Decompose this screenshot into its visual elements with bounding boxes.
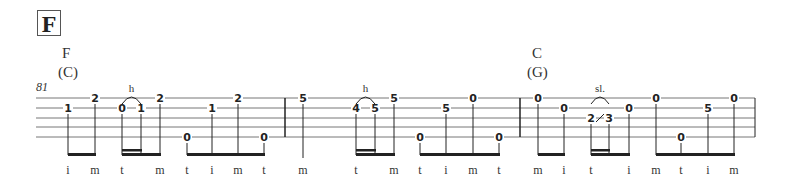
technique-label: h [363, 82, 369, 94]
tablature-staff: 1i2m0t12m0t1i2m0t5m4t55m0t5i0m0t0m0i2t30… [0, 0, 789, 184]
fret-number: 0 [260, 131, 268, 144]
fret-number: 0 [469, 92, 477, 105]
beam [538, 153, 565, 156]
fret-number: 1 [64, 102, 72, 115]
fret-number: 1 [208, 102, 216, 115]
finger-label: i [210, 163, 214, 177]
fret-number: 2 [91, 92, 99, 105]
fret-number: 2 [587, 112, 595, 125]
fret-number: 5 [704, 102, 712, 115]
fret-number: 0 [183, 131, 191, 144]
sub-beam [591, 149, 610, 152]
finger-label: i [627, 163, 631, 177]
beam [68, 153, 96, 156]
finger-label: t [354, 163, 358, 177]
finger-label: t [497, 163, 501, 177]
fret-number: 2 [234, 92, 242, 105]
finger-label: m [155, 163, 165, 177]
finger-label: t [262, 163, 266, 177]
technique-label: sl. [595, 82, 605, 94]
fret-number: 0 [625, 102, 633, 115]
finger-label: m [729, 163, 739, 177]
fret-number: 0 [652, 92, 660, 105]
technique-label: h [129, 82, 135, 94]
fret-number: 2 [156, 92, 164, 105]
finger-label: t [589, 163, 593, 177]
fret-number: 0 [495, 131, 503, 144]
beam [420, 153, 500, 156]
finger-label: m [90, 163, 100, 177]
beam [656, 153, 735, 156]
fret-number: 0 [730, 92, 738, 105]
fret-number: 0 [534, 92, 542, 105]
finger-label: i [66, 163, 70, 177]
finger-label: t [418, 163, 422, 177]
finger-label: i [562, 163, 566, 177]
fret-number: 5 [299, 92, 307, 105]
beam [356, 153, 395, 156]
finger-label: m [389, 163, 399, 177]
fret-number: 0 [560, 102, 568, 115]
fret-number: 3 [605, 112, 613, 125]
beam [122, 153, 161, 156]
finger-label: t [679, 163, 683, 177]
finger-label: m [468, 163, 478, 177]
beam [591, 153, 630, 156]
fret-number: 0 [677, 131, 685, 144]
finger-label: m [533, 163, 543, 177]
sub-beam [122, 149, 142, 152]
finger-label: m [298, 163, 308, 177]
fret-number: 5 [390, 92, 398, 105]
finger-label: m [651, 163, 661, 177]
finger-label: t [185, 163, 189, 177]
finger-label: i [706, 163, 710, 177]
finger-label: m [233, 163, 243, 177]
sub-beam [356, 149, 376, 152]
beam [187, 153, 265, 156]
fret-number: 0 [416, 131, 424, 144]
finger-label: i [444, 163, 448, 177]
finger-label: t [120, 163, 124, 177]
fret-number: 5 [442, 102, 450, 115]
